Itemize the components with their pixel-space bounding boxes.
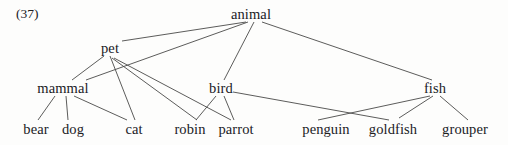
node-grouper: grouper <box>442 122 488 137</box>
node-goldfish: goldfish <box>369 122 417 137</box>
edge-mammal-bear <box>38 96 55 120</box>
node-robin: robin <box>174 122 205 137</box>
edge-fish-grouper <box>440 96 468 120</box>
diagram-canvas: (37) animalpetmammalbirdfishbeardogcatro… <box>0 0 508 145</box>
node-parrot: parrot <box>218 122 253 137</box>
node-mammal: mammal <box>37 81 88 96</box>
node-pet: pet <box>101 41 119 56</box>
node-bird: bird <box>209 81 233 96</box>
edge-pet-mammal <box>72 56 104 80</box>
edge-pet-robin <box>112 58 197 120</box>
edge-mammal-dog <box>66 96 68 120</box>
edge-bird-goldfish <box>233 92 389 120</box>
node-cat: cat <box>125 122 142 137</box>
node-penguin: penguin <box>302 122 349 137</box>
edge-fish-penguin <box>318 96 430 120</box>
edge-animal-fish <box>262 22 432 80</box>
node-dog: dog <box>62 122 84 137</box>
edge-animal-bird <box>224 22 254 80</box>
node-bear: bear <box>23 122 48 137</box>
node-fish: fish <box>424 81 446 96</box>
edge-animal-pet <box>122 22 246 41</box>
node-animal: animal <box>231 7 271 22</box>
edge-mammal-cat <box>74 96 127 120</box>
edge-bird-robin <box>196 96 216 120</box>
edge-bird-parrot <box>224 96 234 120</box>
